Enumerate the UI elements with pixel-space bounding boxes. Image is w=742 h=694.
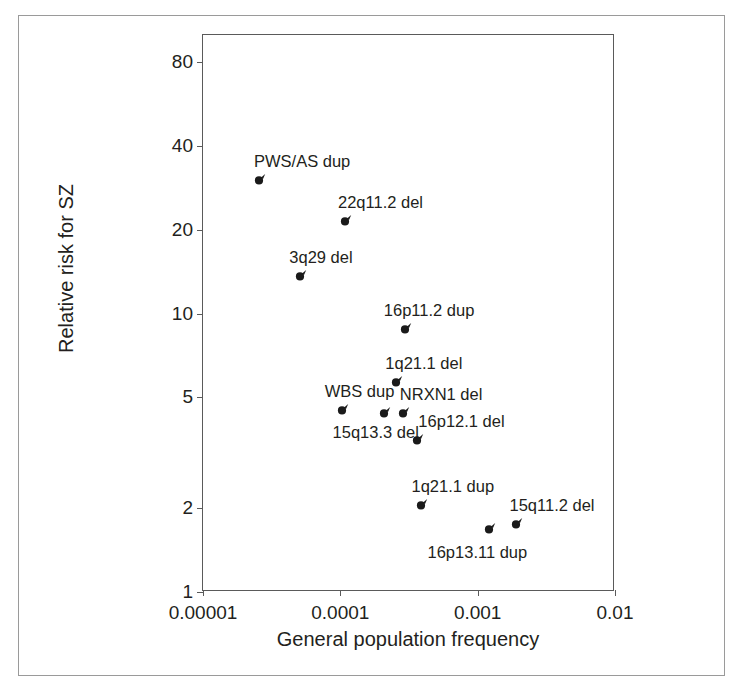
x-tick-label: 0.0001 [311, 602, 369, 624]
point-label: 15q11.2 del [509, 497, 594, 514]
y-tick-mark [197, 508, 203, 509]
y-tick-mark [197, 146, 203, 147]
point-marker-icon [484, 520, 496, 532]
y-tick-mark [197, 397, 203, 398]
y-axis-title: Relative risk for SZ [55, 119, 78, 419]
point-label: 16p11.2 dup [384, 302, 475, 319]
y-tick-label: 5 [182, 386, 193, 408]
point-marker-icon [400, 320, 412, 332]
point-label: NRXN1 del [400, 386, 483, 403]
point-marker-icon [511, 515, 523, 527]
point-label: 1q21.1 del [385, 355, 462, 372]
x-tick-mark [340, 590, 341, 596]
y-tick-mark [197, 62, 203, 63]
plot-area: 12510204080 0.000010.00010.0010.01 PWS/A… [202, 34, 614, 591]
y-tick-label: 20 [172, 219, 193, 241]
point-marker-icon [295, 267, 307, 279]
figure-panel: 12510204080 0.000010.00010.0010.01 PWS/A… [18, 15, 725, 676]
point-label: 3q29 del [289, 249, 352, 266]
point-label: 1q21.1 dup [412, 478, 495, 495]
point-marker-icon [379, 404, 391, 416]
y-tick-mark [197, 314, 203, 315]
point-label: 16p13.11 dup [428, 544, 528, 561]
y-tick-label: 40 [172, 135, 193, 157]
y-tick-label: 10 [172, 303, 193, 325]
y-tick-label: 2 [182, 497, 193, 519]
point-marker-icon [416, 496, 428, 508]
y-tick-mark [197, 230, 203, 231]
x-tick-label: 0.01 [597, 602, 634, 624]
point-label: WBS dup [325, 383, 395, 400]
y-tick-label: 1 [182, 581, 193, 603]
y-tick-label: 80 [172, 51, 193, 73]
x-tick-label: 0.001 [454, 602, 502, 624]
point-label: 16p12.1 del [418, 413, 504, 430]
point-marker-icon [398, 404, 410, 416]
x-tick-mark [478, 590, 479, 596]
x-tick-mark [615, 590, 616, 596]
point-label: PWS/AS dup [254, 153, 350, 170]
point-label: 15q13.3 del [333, 424, 419, 441]
x-tick-mark [203, 590, 204, 596]
point-marker-icon [412, 431, 424, 443]
x-tick-label: 0.00001 [169, 602, 238, 624]
point-marker-icon [340, 212, 352, 224]
point-marker-icon [337, 401, 349, 413]
point-marker-icon [254, 171, 266, 183]
x-axis-title: General population frequency [202, 628, 614, 651]
point-label: 22q11.2 del [338, 194, 423, 211]
